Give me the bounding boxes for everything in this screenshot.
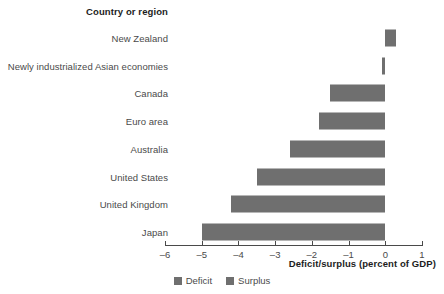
chart-row: Canada [0, 80, 444, 108]
x-tick-mark [165, 241, 166, 246]
x-tick-mark [349, 241, 350, 246]
chart-row: United States [0, 163, 444, 191]
x-axis-line [165, 245, 422, 246]
legend-item: Surplus [226, 275, 270, 286]
x-tick-label: –5 [187, 249, 217, 260]
x-tick-mark [385, 241, 386, 246]
x-tick-mark [312, 241, 313, 246]
x-tick-mark [275, 241, 276, 246]
x-tick-mark [202, 241, 203, 246]
chart-row: Australia [0, 135, 444, 163]
bar-deficit [257, 168, 386, 185]
x-tick-label: –4 [223, 249, 253, 260]
chart-row: United Kingdom [0, 191, 444, 219]
category-label: United States [0, 171, 168, 182]
category-label: Australia [0, 143, 168, 154]
x-axis: –6–5–4–3–2–101 [0, 245, 444, 246]
bar-deficit [330, 85, 385, 102]
category-label: Newly industrialized Asian economies [0, 60, 168, 71]
chart-row: Newly industrialized Asian economies [0, 52, 444, 80]
chart-row: New Zealand [0, 24, 444, 52]
chart-legend: DeficitSurplus [0, 275, 444, 286]
bar-surplus [385, 29, 396, 46]
category-label: New Zealand [0, 32, 168, 43]
plot-area: New ZealandNewly industrialized Asian ec… [0, 24, 444, 246]
legend-label: Surplus [238, 275, 270, 286]
category-label: Canada [0, 88, 168, 99]
category-label: Euro area [0, 116, 168, 127]
bar-deficit [290, 140, 385, 157]
category-label: United Kingdom [0, 199, 168, 210]
legend-swatch-icon [226, 277, 234, 285]
chart-row: Japan [0, 218, 444, 246]
x-tick-label: –3 [260, 249, 290, 260]
chart-row: Euro area [0, 107, 444, 135]
legend-item: Deficit [174, 275, 212, 286]
bar-deficit [319, 113, 385, 130]
x-tick-mark [422, 241, 423, 246]
column-header-country-or-region: Country or region [0, 6, 168, 17]
bar-deficit [382, 57, 386, 74]
x-tick-mark [238, 241, 239, 246]
category-label: Japan [0, 227, 168, 238]
x-tick-label: –6 [150, 249, 180, 260]
deficit-surplus-bar-chart: Country or region New ZealandNewly indus… [0, 0, 444, 294]
legend-label: Deficit [186, 275, 212, 286]
legend-swatch-icon [174, 277, 182, 285]
bar-deficit [202, 224, 386, 241]
x-axis-title: Deficit/surplus (percent of GDP) [289, 258, 436, 269]
bar-deficit [231, 196, 385, 213]
